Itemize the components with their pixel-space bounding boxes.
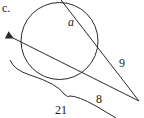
segment-label-a: a — [68, 15, 74, 29]
segment-label-9: 9 — [119, 56, 125, 70]
geometry-diagram: c. a 9 8 21 — [0, 0, 144, 118]
circle — [21, 3, 98, 80]
part-label: c. — [2, 1, 10, 15]
segment-label-21: 21 — [55, 103, 67, 117]
segment-label-8: 8 — [96, 92, 102, 106]
